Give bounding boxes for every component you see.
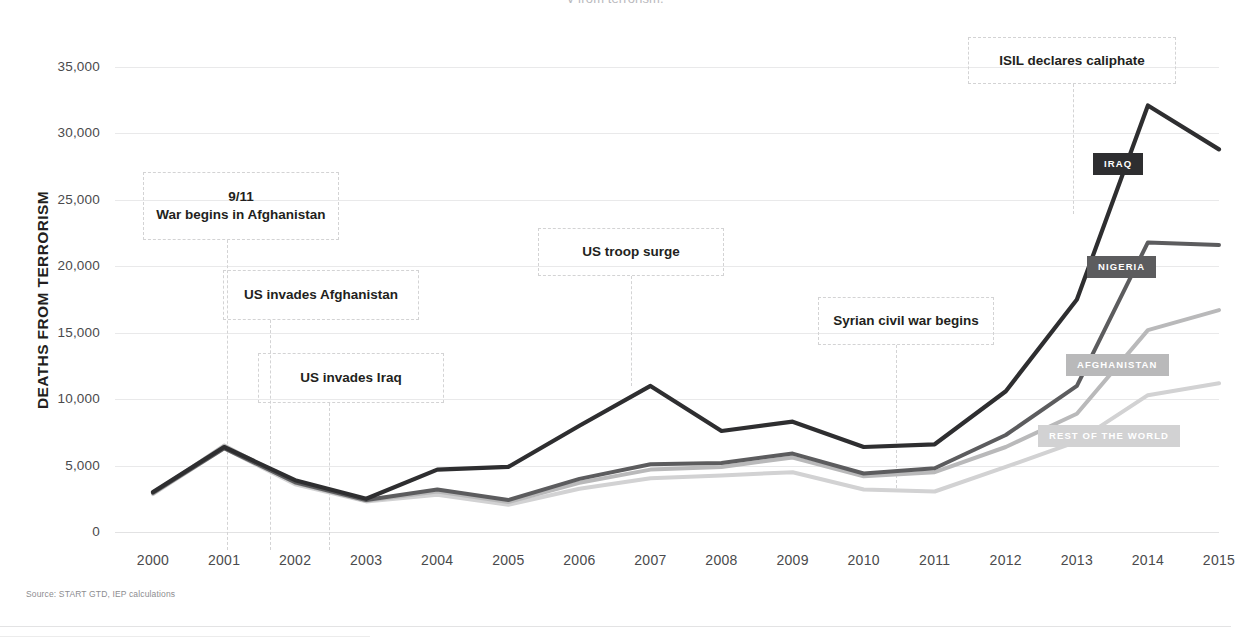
x-axis-tick-label: 2011: [900, 552, 970, 568]
plot-area: [115, 67, 1219, 532]
x-axis-tick-label: 2015: [1184, 552, 1239, 568]
x-axis-tick-label: 2013: [1042, 552, 1112, 568]
x-axis-tick-label: 2012: [971, 552, 1041, 568]
x-axis-tick-label: 2001: [189, 552, 259, 568]
clipped-header-text: y from terrorism.: [0, 0, 1231, 3]
x-axis-tick-label: 2008: [687, 552, 757, 568]
source-note: Source: START GTD, IEP calculations: [26, 589, 175, 599]
y-axis-title-text: DEATHS FROM TERRORISM: [34, 191, 52, 409]
y-axis-tick-label: 35,000: [20, 59, 100, 74]
x-axis-tick-label: 2009: [758, 552, 828, 568]
x-axis-tick-label: 2000: [118, 552, 188, 568]
y-axis-tick-label: 10,000: [20, 391, 100, 406]
x-axis-tick-label: 2010: [829, 552, 899, 568]
x-axis-tick-label: 2003: [331, 552, 401, 568]
series-badge-afghanistan[interactable]: AFGHANISTAN: [1066, 354, 1169, 376]
x-axis-tick-label: 2005: [473, 552, 543, 568]
series-line-nigeria: [153, 242, 1219, 500]
y-axis-tick-label: 0: [20, 524, 100, 539]
series-badge-nigeria[interactable]: NIGERIA: [1087, 256, 1156, 278]
y-axis-tick-label: 30,000: [20, 125, 100, 140]
x-axis-tick-label: 2002: [260, 552, 330, 568]
series-badge-rest-of-the-world[interactable]: REST OF THE WORLD: [1038, 425, 1180, 447]
y-axis-tick-label: 25,000: [20, 192, 100, 207]
y-axis-tick-label: 20,000: [20, 258, 100, 273]
y-axis-tick-label: 5,000: [20, 458, 100, 473]
series-lines: [115, 67, 1219, 532]
series-badge-iraq[interactable]: IRAQ: [1093, 153, 1143, 175]
footer-divider-secondary: [0, 636, 370, 637]
x-axis-tick-label: 2006: [544, 552, 614, 568]
y-axis-tick-label: 15,000: [20, 325, 100, 340]
footer-divider: [0, 626, 1231, 627]
x-axis-tick-label: 2007: [615, 552, 685, 568]
x-axis-tick-label: 2014: [1113, 552, 1183, 568]
gridline: [115, 532, 1219, 533]
x-axis-tick-label: 2004: [402, 552, 472, 568]
